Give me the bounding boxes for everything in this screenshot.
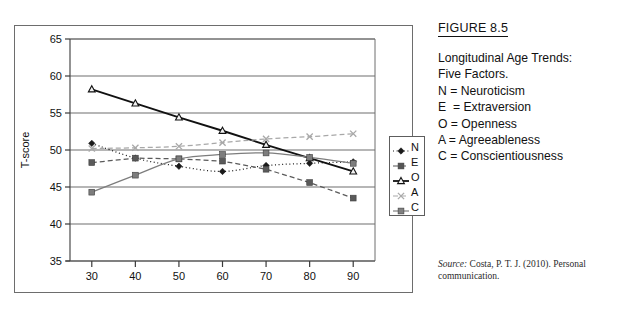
legend-label-O: O xyxy=(411,172,420,182)
data-point xyxy=(176,156,182,162)
legend-label-A: A xyxy=(411,187,418,197)
y-tick-label: 45 xyxy=(50,181,62,193)
legend-label-C: C xyxy=(411,202,419,212)
x-tick-labels: 30405060708090 xyxy=(86,270,360,282)
source-prefix: Source: xyxy=(438,259,467,269)
data-point xyxy=(350,195,356,201)
y-axis-title: T-score xyxy=(19,132,31,169)
legend-label-N: N xyxy=(411,142,419,152)
data-point xyxy=(219,168,225,174)
legend-swatch-C-icon xyxy=(392,202,410,212)
y-tick-label: 55 xyxy=(50,107,62,119)
legend-swatch-N-icon xyxy=(392,142,410,152)
figure-8-5: 35404550556065 30405060708090 T-score Ag… xyxy=(0,0,628,312)
x-tick-label: 40 xyxy=(129,270,141,282)
x-axis-title: Age xyxy=(213,291,233,292)
caption-line-1: Five Factors. xyxy=(438,66,620,82)
data-series xyxy=(88,86,356,201)
x-tick-label: 50 xyxy=(173,270,185,282)
data-point xyxy=(263,150,269,156)
caption-line-4: O = Openness xyxy=(438,116,620,132)
y-tick-labels: 35404550556065 xyxy=(50,33,62,267)
data-point xyxy=(307,155,313,161)
x-tick-label: 90 xyxy=(347,270,359,282)
data-point xyxy=(176,163,182,169)
caption-text: Longitudinal Age Trends:Five Factors.N =… xyxy=(438,50,620,165)
data-point xyxy=(307,180,313,186)
data-point xyxy=(132,172,138,178)
data-point xyxy=(220,152,226,158)
caption-column: FIGURE 8.5 Longitudinal Age Trends:Five … xyxy=(438,18,620,165)
y-tick-label: 65 xyxy=(50,33,62,45)
caption-line-3: E = Extraversion xyxy=(438,99,620,115)
data-point xyxy=(220,158,226,164)
legend-swatch-O-icon xyxy=(392,172,410,182)
data-point xyxy=(89,160,95,166)
legend-item-E: E xyxy=(390,154,424,169)
data-point xyxy=(89,189,95,195)
gridlines xyxy=(70,39,375,261)
chart-panel: 35404550556065 30405060708090 T-score Ag… xyxy=(14,25,413,293)
x-tick-label: 70 xyxy=(260,270,272,282)
caption-line-5: A = Agreeableness xyxy=(438,132,620,148)
data-point xyxy=(263,166,269,172)
legend-swatch-E-icon xyxy=(392,157,410,167)
y-tick-label: 60 xyxy=(50,70,62,82)
line-chart: 35404550556065 30405060708090 T-score Ag… xyxy=(15,26,412,292)
y-tick-label: 40 xyxy=(50,218,62,230)
x-tick-label: 30 xyxy=(86,270,98,282)
data-point xyxy=(350,160,356,166)
chart-legend: NEOAC xyxy=(389,136,425,216)
legend-item-O: O xyxy=(390,169,424,184)
legend-item-C: C xyxy=(390,199,424,214)
legend-item-A: A xyxy=(390,184,424,199)
caption-line-0: Longitudinal Age Trends: xyxy=(438,50,620,66)
data-point xyxy=(88,86,95,92)
legend-item-N: N xyxy=(390,139,424,154)
y-tick-label: 50 xyxy=(50,144,62,156)
caption-line-6: C = Conscientiousness xyxy=(438,148,620,164)
source-note: Source: Costa, P. T. J. (2010). Personal… xyxy=(438,258,616,282)
x-tick-label: 60 xyxy=(216,270,228,282)
legend-swatch-A-icon xyxy=(392,187,410,197)
tick-marks xyxy=(65,39,353,267)
figure-number-label: FIGURE 8.5 xyxy=(438,21,508,37)
data-point xyxy=(132,155,138,161)
caption-line-2: N = Neuroticism xyxy=(438,83,620,99)
legend-label-E: E xyxy=(411,157,418,167)
y-tick-label: 35 xyxy=(50,255,62,267)
x-tick-label: 80 xyxy=(304,270,316,282)
